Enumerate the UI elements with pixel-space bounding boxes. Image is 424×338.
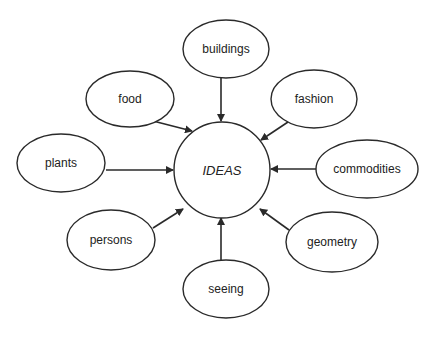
arrow-food-to-ideas	[153, 121, 192, 131]
node-geometry: geometry	[286, 212, 378, 272]
arrow-persons-to-ideas	[153, 209, 183, 228]
node-label: buildings	[202, 42, 249, 56]
node-label: seeing	[208, 282, 243, 296]
node-persons: persons	[67, 210, 155, 270]
node-seeing: seeing	[183, 260, 269, 318]
arrow-fashion-to-ideas	[261, 122, 288, 140]
node-plants: plants	[17, 134, 105, 192]
node-buildings: buildings	[183, 20, 269, 78]
ideas-concept-diagram: buildingsfoodfashionplantscommoditiesper…	[0, 0, 424, 338]
node-food: food	[86, 71, 174, 127]
node-label: food	[118, 92, 141, 106]
center-node-ideas: IDEAS	[174, 122, 270, 218]
node-fashion: fashion	[271, 70, 357, 128]
node-label: geometry	[307, 235, 357, 249]
node-label: persons	[90, 233, 133, 247]
node-label: fashion	[295, 92, 334, 106]
arrow-geometry-to-ideas	[260, 209, 289, 230]
center-label: IDEAS	[202, 163, 241, 178]
node-label: commodities	[333, 162, 400, 176]
node-commodities: commodities	[316, 140, 418, 198]
node-label: plants	[45, 156, 77, 170]
